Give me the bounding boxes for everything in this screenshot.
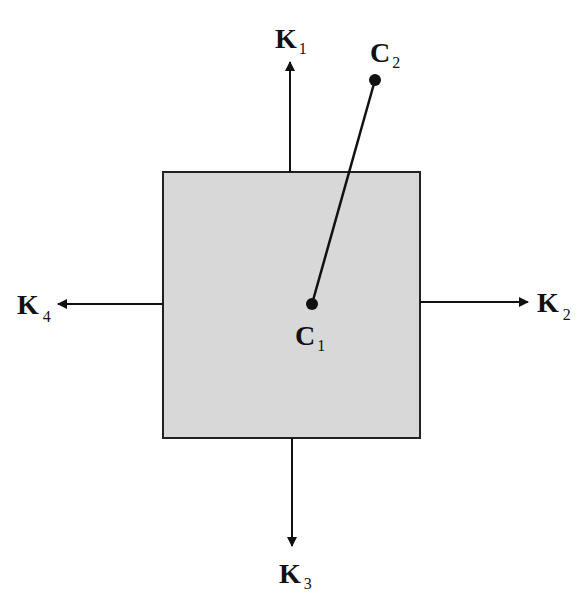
force-diagram: K1 C2 K2 K4 C1 K3	[0, 0, 580, 599]
label-c2: C2	[370, 37, 400, 71]
point-c1	[306, 298, 318, 310]
body-square	[163, 172, 420, 438]
label-k1: K1	[275, 23, 307, 57]
label-k4: K4	[17, 289, 51, 325]
label-k3: K3	[279, 558, 312, 592]
label-k2: K2	[537, 287, 571, 323]
point-c2	[369, 74, 381, 86]
